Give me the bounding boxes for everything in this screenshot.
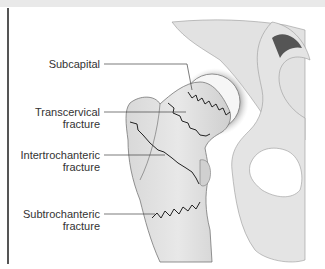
- label-intertrochanteric: Intertrochanteric fracture: [21, 149, 100, 173]
- femur-shaft: [126, 82, 231, 262]
- label-line: Subcapital: [49, 58, 100, 70]
- label-line: Transcervical: [35, 106, 100, 118]
- label-line: fracture: [23, 220, 100, 232]
- lesser-trochanter: [200, 160, 211, 186]
- label-subtrochanteric: Subtrochanteric fracture: [23, 208, 100, 232]
- label-line: Intertrochanteric: [21, 149, 100, 161]
- label-line: Subtrochanteric: [23, 208, 100, 220]
- label-subcapital: Subcapital: [49, 58, 100, 70]
- label-transcervical: Transcervical fracture: [35, 106, 100, 130]
- label-line: fracture: [21, 161, 100, 173]
- subcapital-leader: [104, 64, 192, 90]
- label-line: fracture: [35, 118, 100, 130]
